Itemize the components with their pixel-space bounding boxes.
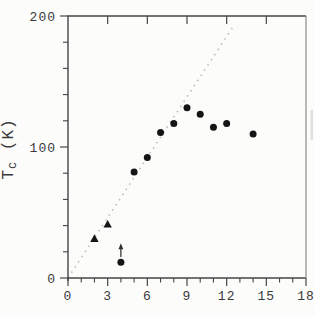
x-tick-label: 3 <box>103 289 112 304</box>
data-point-circle <box>117 259 124 266</box>
x-tick-label: 0 <box>64 289 73 304</box>
x-tick-label: 15 <box>258 289 276 304</box>
data-point-circle <box>170 120 177 127</box>
data-point-circle <box>157 129 164 136</box>
data-point-circle <box>144 154 151 161</box>
y-axis-title: Tc (K) <box>0 118 20 179</box>
annotation-arrow-head <box>118 243 123 249</box>
scan-artifact <box>311 110 314 140</box>
y-tick-label: 0 <box>47 272 56 287</box>
x-tick-label: 18 <box>297 289 315 304</box>
data-point-circle <box>250 130 257 137</box>
x-tick-label: 12 <box>218 289 236 304</box>
data-point-triangle <box>103 220 111 228</box>
data-point-triangle <box>90 234 98 242</box>
y-tick-label: 100 <box>30 141 56 156</box>
figure-page: 03691215180100200Tc (K) <box>0 0 315 316</box>
data-point-circle <box>131 168 138 175</box>
x-tick-label: 6 <box>143 289 152 304</box>
data-point-circle <box>223 120 230 127</box>
data-point-circle <box>184 104 191 111</box>
data-point-circle <box>197 111 204 118</box>
data-point-circle <box>210 124 217 131</box>
x-tick-label: 9 <box>183 289 192 304</box>
y-tick-label: 200 <box>30 10 56 25</box>
tc-scatter-plot: 03691215180100200Tc (K) <box>0 0 315 316</box>
